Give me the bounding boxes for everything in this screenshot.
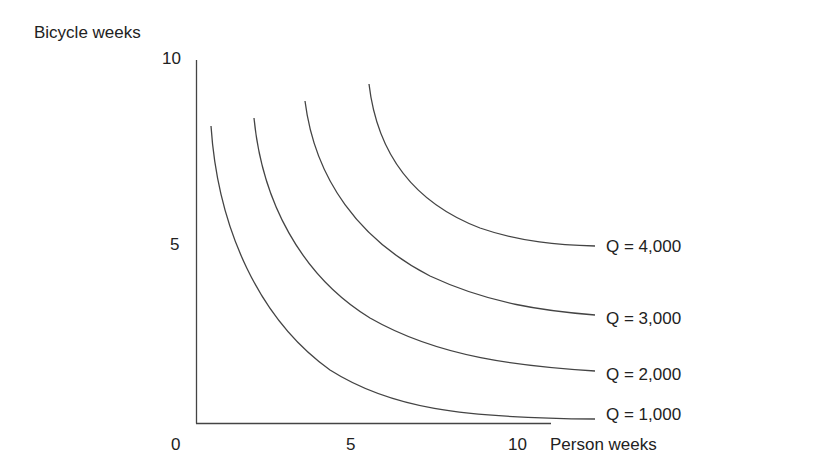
label-q4000: Q = 4,000	[606, 238, 681, 255]
label-q2000: Q = 2,000	[606, 366, 681, 383]
label-q1000: Q = 1,000	[606, 406, 681, 423]
x-tick-0: 0	[171, 436, 180, 453]
isoquant-chart	[0, 0, 817, 468]
x-tick-10: 10	[508, 436, 527, 453]
x-axis-title: Person weeks	[550, 436, 657, 453]
isoquant-q3000	[305, 101, 595, 315]
y-tick-10: 10	[162, 50, 181, 67]
y-tick-5: 5	[170, 236, 179, 253]
y-axis-title: Bicycle weeks	[34, 24, 141, 41]
isoquant-q2000	[254, 118, 595, 371]
x-tick-5: 5	[346, 436, 355, 453]
label-q3000: Q = 3,000	[606, 310, 681, 327]
isoquant-q4000	[369, 84, 595, 246]
isoquant-q1000	[211, 126, 595, 419]
